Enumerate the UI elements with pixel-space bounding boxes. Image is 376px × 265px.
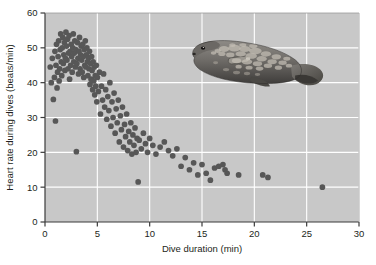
y-tick-label: 0	[32, 216, 37, 227]
scatter-plot-figure: 0510152025300102030405060 Dive duration …	[0, 0, 376, 265]
y-tick-label: 60	[27, 7, 38, 18]
x-tick-label: 15	[197, 228, 208, 239]
x-tick-label: 20	[249, 228, 260, 239]
x-tick-label: 30	[354, 228, 365, 239]
y-tick-label: 10	[27, 182, 38, 193]
y-tick-label: 40	[27, 77, 38, 88]
x-tick-label: 0	[42, 228, 47, 239]
y-axis-title: Heart rate during dives (beats/min)	[4, 44, 15, 190]
x-axis-title: Dive duration (min)	[162, 243, 242, 254]
y-tick-label: 30	[27, 112, 38, 123]
x-tick-label: 5	[95, 228, 100, 239]
x-tick-label: 10	[144, 228, 155, 239]
x-tick-label: 25	[301, 228, 312, 239]
y-tick-label: 20	[27, 147, 38, 158]
y-tick-label: 50	[27, 42, 38, 53]
